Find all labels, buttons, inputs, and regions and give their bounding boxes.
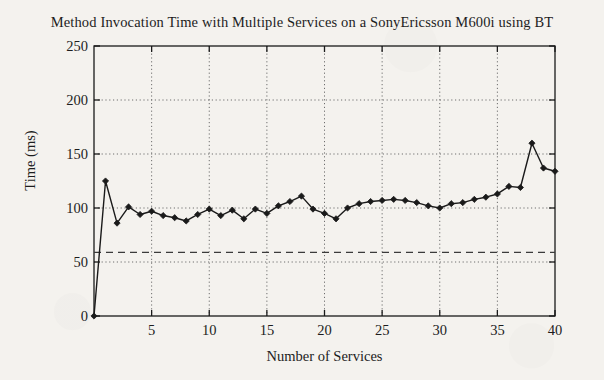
data-series-markers: [91, 140, 558, 319]
plot-area: [0, 0, 604, 380]
gridlines: [94, 46, 555, 316]
axis-frame: [94, 46, 555, 316]
axis-ticks: [94, 46, 555, 316]
chart-figure: Method Invocation Time with Multiple Ser…: [0, 0, 604, 380]
